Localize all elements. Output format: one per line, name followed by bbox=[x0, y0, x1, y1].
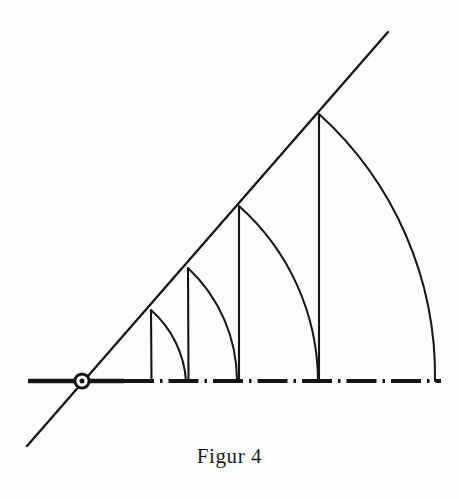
figure-caption: Figur 4 bbox=[0, 444, 459, 469]
figure-container: Figur 4 bbox=[0, 0, 459, 499]
arc-4 bbox=[319, 114, 435, 381]
arc-1 bbox=[151, 310, 186, 381]
figure-drawing bbox=[0, 0, 459, 499]
vertical-segment-1 bbox=[151, 310, 152, 381]
arc-2 bbox=[188, 268, 237, 381]
origin-marker-dot bbox=[80, 379, 85, 384]
arc-3 bbox=[239, 206, 318, 381]
vertical-segment-2 bbox=[188, 268, 189, 381]
